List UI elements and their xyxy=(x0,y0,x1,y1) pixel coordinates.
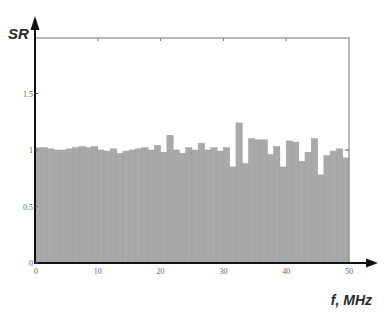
x-tick-label: 10 xyxy=(94,267,102,276)
bar xyxy=(167,135,173,263)
bar xyxy=(73,148,79,263)
bar xyxy=(123,151,129,263)
bar xyxy=(129,150,135,263)
bar xyxy=(274,147,280,263)
x-tick-label: 20 xyxy=(157,267,165,276)
bar xyxy=(336,149,342,263)
y-tick-label: 0.5 xyxy=(23,203,33,212)
bar xyxy=(173,150,179,263)
bar xyxy=(343,158,349,263)
bar xyxy=(48,149,54,263)
bar xyxy=(292,142,298,263)
bar xyxy=(186,148,192,263)
bar xyxy=(135,149,141,263)
y-axis-title: SR xyxy=(8,25,29,42)
bar xyxy=(230,167,236,263)
bar xyxy=(261,140,267,263)
bar xyxy=(148,150,154,263)
bar xyxy=(66,149,72,263)
y-tick-label: 1 xyxy=(29,146,33,155)
bar xyxy=(179,153,185,263)
bar-chart: 01020304050 00.511.5 SR f, MHz xyxy=(0,0,384,318)
bar xyxy=(79,147,85,263)
bar xyxy=(142,148,148,263)
bar xyxy=(267,155,273,263)
bars-group xyxy=(35,123,349,263)
bar xyxy=(211,148,217,263)
bar xyxy=(117,153,123,263)
bar xyxy=(98,150,104,263)
bar xyxy=(280,167,286,263)
bar xyxy=(286,141,292,263)
bar xyxy=(104,151,110,263)
x-axis-arrow-icon xyxy=(366,259,378,268)
x-ticks-group: 01020304050 xyxy=(34,267,353,276)
y-tick-label: 1.5 xyxy=(23,90,33,99)
bar xyxy=(236,123,242,263)
y-axis-arrow-icon xyxy=(31,16,40,30)
bar xyxy=(92,147,98,263)
bar xyxy=(154,145,160,263)
bar xyxy=(161,152,167,263)
bar xyxy=(299,161,305,263)
bar xyxy=(110,149,116,263)
x-tick-label: 40 xyxy=(282,267,290,276)
bar xyxy=(318,175,324,263)
x-tick-label: 0 xyxy=(34,267,38,276)
x-axis-title: f, MHz xyxy=(331,292,372,308)
bar xyxy=(85,148,91,263)
bar xyxy=(54,150,60,263)
bar xyxy=(324,156,330,263)
bar xyxy=(198,143,204,263)
bar xyxy=(223,148,229,263)
y-tick-label: 0 xyxy=(29,259,33,268)
bar xyxy=(255,140,261,263)
bar xyxy=(305,152,311,263)
x-tick-label: 30 xyxy=(219,267,227,276)
bar xyxy=(41,148,47,263)
bar xyxy=(60,150,66,263)
bar xyxy=(205,150,211,263)
bar xyxy=(330,151,336,263)
x-tick-label: 50 xyxy=(345,267,353,276)
bar xyxy=(192,150,198,263)
bar xyxy=(217,151,223,263)
bar xyxy=(311,139,317,263)
bar xyxy=(242,164,248,263)
bar xyxy=(249,139,255,263)
